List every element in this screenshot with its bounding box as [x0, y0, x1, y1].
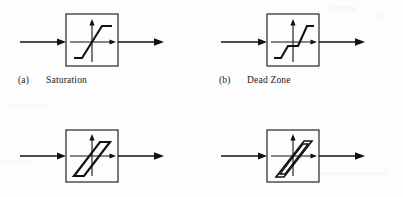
y-axis-arrowhead — [89, 19, 94, 26]
caption-label: Saturation — [46, 75, 87, 85]
caption-label: Dead Zone — [247, 75, 291, 85]
hysteresis-symbol — [0, 98, 201, 197]
caption-dead-zone: (b)Dead Zone — [219, 75, 291, 85]
figure-cell-saturation: (a)Saturation — [0, 0, 201, 98]
input-arrowhead — [258, 152, 267, 159]
input-arrowhead — [57, 152, 66, 159]
figure-canvas: (a)Saturation (b)Dead Zone — [0, 0, 403, 197]
figure-cell-hysteresis — [0, 98, 201, 196]
caption-tag: (b) — [219, 75, 239, 85]
x-axis-arrowhead — [311, 153, 318, 158]
backlash-loop-inner — [280, 144, 308, 174]
x-axis-arrowhead — [311, 39, 318, 44]
backlash-symbol — [201, 98, 403, 197]
y-axis-arrowhead — [89, 134, 94, 141]
y-axis-arrowhead — [290, 134, 295, 141]
input-arrowhead — [258, 38, 267, 45]
figure-cell-dead-zone: (b)Dead Zone — [201, 0, 402, 98]
input-arrowhead — [57, 38, 66, 45]
output-arrowhead — [355, 152, 365, 160]
caption-tag: (a) — [18, 75, 38, 85]
figure-cell-backlash — [201, 98, 402, 196]
output-arrowhead — [154, 152, 164, 160]
output-arrowhead — [355, 38, 365, 46]
caption-saturation: (a)Saturation — [18, 75, 87, 85]
x-axis-arrowhead — [110, 39, 117, 44]
output-arrowhead — [154, 38, 164, 46]
y-axis-arrowhead — [290, 19, 295, 26]
x-axis-arrowhead — [110, 153, 117, 158]
